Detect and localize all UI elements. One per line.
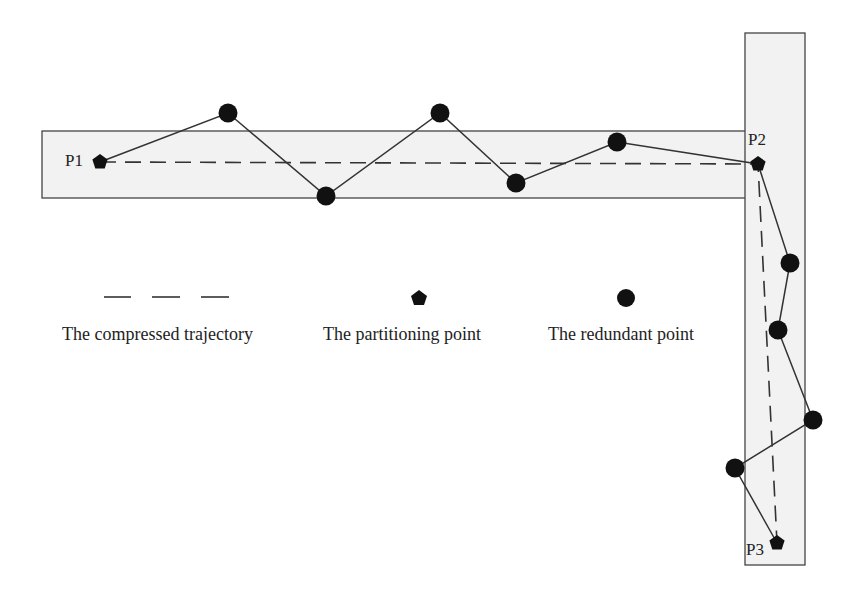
compressed-trajectory — [100, 162, 777, 543]
redundant-point-icon — [726, 459, 745, 478]
horizontal-band — [42, 131, 748, 198]
vertical-band — [745, 33, 805, 565]
point-label-p2: P2 — [748, 130, 766, 149]
redundant-point-icon — [769, 321, 788, 340]
point-label-p1: P1 — [65, 151, 83, 170]
redundant-point-icon — [781, 254, 800, 273]
legend: The compressed trajectory The partitioni… — [62, 289, 694, 344]
legend-partitioning-point-label: The partitioning point — [323, 324, 481, 344]
redundant-point-icon — [507, 174, 526, 193]
redundant-point-icon — [804, 411, 823, 430]
point-label-p3: P3 — [746, 540, 764, 559]
legend-circle-icon — [617, 289, 635, 307]
trajectory-diagram: P1P2P3 The compressed trajectory The par… — [0, 0, 860, 590]
redundant-point-icon — [431, 104, 450, 123]
legend-pentagon-icon — [411, 290, 427, 305]
legend-redundant-point-label: The redundant point — [548, 324, 694, 344]
redundant-point-icon — [317, 187, 336, 206]
redundant-point-icon — [608, 133, 627, 152]
redundant-point-icon — [219, 104, 238, 123]
compressed-trajectory-line — [100, 162, 777, 543]
legend-compressed-trajectory-label: The compressed trajectory — [62, 324, 253, 344]
